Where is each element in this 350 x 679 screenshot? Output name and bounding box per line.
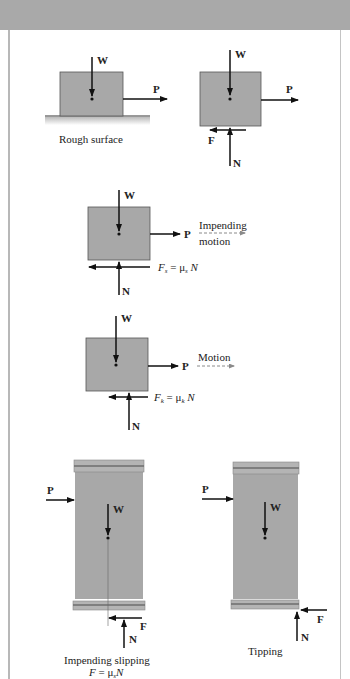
friction-label: F (140, 620, 147, 632)
weight-label: W (113, 503, 124, 515)
friction-label: F (317, 613, 324, 625)
surface-shadow (45, 117, 150, 125)
weight-label: W (97, 54, 108, 66)
panel-impending-motion: W P Impending motion Fs = μs N N (88, 189, 247, 297)
caption-tipping: Tipping (248, 645, 283, 657)
friction-diagrams: W P Rough surface W P F N W P Impending … (0, 0, 350, 679)
impending-label: Impending (199, 219, 247, 231)
center-of-mass (106, 536, 109, 539)
kinetic-friction-equation: Fk = μk N (153, 391, 195, 405)
normal-label: N (132, 420, 140, 432)
push-label: P (153, 83, 160, 95)
motion-label: motion (199, 235, 231, 247)
center-of-mass (117, 232, 120, 235)
panel-free-body: W P F N (200, 48, 298, 169)
panel-impending-slipping: P W F N Impending slipping F = μsN (46, 460, 150, 679)
tall-block (75, 466, 143, 599)
static-friction-equation: Fs = μs N (157, 261, 199, 275)
push-label: P (182, 360, 189, 372)
weight-label: W (121, 312, 132, 324)
caption-slipping-equation: F = μsN (88, 666, 124, 679)
motion-label: Motion (198, 351, 231, 363)
panel-motion: W P Motion Fk = μk N N (86, 312, 234, 432)
caption-rough-surface: Rough surface (59, 133, 123, 145)
caption-impending-slipping: Impending slipping (64, 654, 150, 666)
push-label: P (202, 483, 209, 495)
push-label: P (47, 484, 54, 496)
push-label: P (184, 228, 191, 240)
weight-label: W (235, 48, 246, 60)
friction-label: F (208, 134, 215, 146)
push-label: P (286, 83, 293, 95)
normal-label: N (129, 633, 137, 645)
normal-label: N (301, 631, 309, 643)
weight-label: W (270, 501, 281, 513)
panel-rough-surface: W P Rough surface (45, 54, 167, 145)
center-of-mass (263, 536, 266, 539)
normal-label: N (233, 157, 241, 169)
panel-tipping: P W F N Tipping (202, 462, 327, 657)
center-of-mass (114, 363, 117, 366)
weight-label: W (124, 189, 135, 201)
center-of-mass (228, 97, 231, 100)
center-of-mass (90, 97, 93, 100)
normal-label: N (122, 285, 130, 297)
